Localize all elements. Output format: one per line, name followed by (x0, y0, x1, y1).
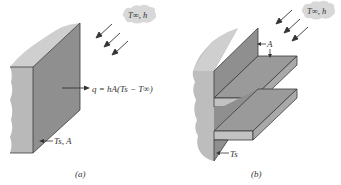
panel-b: A Ts T∞, h (b) (193, 1, 335, 179)
area-label: A (266, 39, 273, 49)
ambient-conditions-label: T∞, h (128, 10, 147, 20)
caption-b: (b) (251, 169, 262, 179)
wall-section-face (10, 67, 33, 153)
heat-rate-equation: q = hA(Ts − T∞) (92, 84, 153, 94)
heat-transfer-diagram: q = hA(Ts − T∞) Ts, A T∞, h (a) (0, 0, 341, 185)
convection-arrows (96, 24, 128, 55)
convection-arrows (276, 10, 308, 41)
caption-a: (a) (75, 169, 86, 179)
fin-2-edge (214, 131, 253, 140)
surface-temp-label: Ts (230, 149, 238, 159)
ambient-conditions-label: T∞, h (307, 6, 326, 16)
panel-a: q = hA(Ts − T∞) Ts, A T∞, h (a) (10, 5, 156, 179)
surface-temp-area-label: Ts, A (54, 136, 72, 146)
arrowhead-icon (84, 86, 90, 91)
